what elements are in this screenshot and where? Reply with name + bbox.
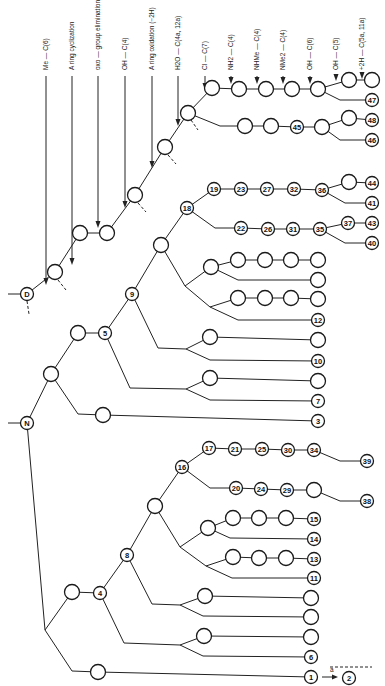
node-circle — [48, 265, 63, 280]
compound-node-43: 43 — [366, 217, 379, 230]
edge — [105, 333, 186, 389]
node-circle — [197, 629, 212, 644]
transformation-t11: OH — C(6) — [306, 38, 314, 85]
node-circle — [284, 291, 299, 306]
node-label: 11 — [310, 574, 318, 583]
intermediate-node — [91, 665, 106, 680]
node-label: 32 — [290, 185, 298, 194]
node-label: 16 — [178, 463, 186, 472]
compound-node-48: 48 — [366, 114, 379, 127]
compound-node-47: 47 — [366, 94, 379, 107]
node-circle — [311, 333, 326, 348]
transformation-label: A ring cyclization — [68, 21, 76, 70]
arrowhead-icon — [44, 278, 49, 285]
intermediate-node — [198, 589, 213, 604]
arrowhead-icon — [255, 77, 260, 84]
node-circle — [342, 111, 357, 126]
compound-node-23: 23 — [235, 183, 248, 196]
transformation-t9: NHMe — C(4) — [253, 29, 261, 84]
edge — [127, 506, 155, 555]
intermediate-node — [304, 591, 319, 606]
transformation-t4: OH — C(4) — [121, 38, 129, 209]
edge — [211, 267, 318, 280]
node-label: 20 — [232, 484, 240, 493]
intermediate-node — [258, 253, 273, 268]
intermediate-node — [128, 188, 143, 203]
node-circle — [232, 82, 247, 97]
compound-node-6: 6 — [305, 651, 318, 664]
dashed-continuation — [138, 203, 146, 212]
reaction-pathway-diagram: a Me — C(6)A ring cyclizationoxo — group… — [0, 0, 385, 686]
edge — [103, 415, 318, 421]
node-label: 2 — [347, 674, 351, 683]
node-label: 29 — [283, 486, 291, 495]
intermediate-node — [284, 291, 299, 306]
compound-node-27: 27 — [261, 183, 274, 196]
node-circle — [342, 175, 357, 190]
edge — [210, 307, 318, 320]
intermediate-node — [65, 585, 80, 600]
node-circle — [307, 483, 322, 498]
node-circle — [264, 119, 279, 134]
edge — [318, 89, 372, 100]
intermediate-node — [311, 273, 326, 288]
compound-node-26: 26 — [262, 223, 275, 236]
intermediate-node — [342, 111, 357, 126]
node-circle — [304, 630, 319, 645]
nodes: DN47454846591819232732364441222631353743… — [21, 73, 380, 685]
edge — [206, 566, 314, 578]
intermediate-node — [279, 511, 294, 526]
compound-node-34: 34 — [308, 444, 321, 457]
compound-node-D: D — [21, 288, 34, 301]
transformation-t10: NMe2 — C(4) — [279, 30, 287, 84]
compound-node-8: 8 — [121, 549, 134, 562]
node-label: 6 — [309, 653, 313, 662]
node-circle — [226, 550, 241, 565]
edge — [132, 294, 186, 349]
intermediate-node — [311, 253, 326, 268]
node-label: 39 — [363, 457, 371, 466]
intermediate-node — [279, 551, 294, 566]
compound-node-35: 35 — [314, 223, 327, 236]
compound-node-21: 21 — [229, 443, 242, 456]
node-label: 5 — [103, 329, 107, 338]
node-label: 44 — [368, 179, 377, 188]
node-circle — [231, 291, 246, 306]
compound-node-4: 4 — [94, 587, 107, 600]
edge — [27, 374, 51, 423]
compound-node-3: 3 — [312, 415, 325, 428]
node-circle — [226, 511, 241, 526]
node-label: 24 — [257, 485, 266, 494]
edge — [98, 672, 311, 677]
transformation-label: OH — C(6) — [306, 38, 314, 71]
node-label: 43 — [368, 219, 376, 228]
transformation-label: OH — C(4) — [121, 38, 129, 71]
edge — [100, 593, 180, 645]
node-circle — [258, 291, 273, 306]
node-circle — [91, 665, 106, 680]
intermediate-node — [226, 550, 241, 565]
compound-node-44: 44 — [366, 177, 379, 190]
node-circle — [304, 610, 319, 625]
node-label: 46 — [368, 136, 376, 145]
arrowhead-icon — [308, 77, 313, 84]
node-label: 27 — [263, 185, 271, 194]
node-label: 19 — [210, 185, 218, 194]
transformation-label: OH — C(5) — [332, 38, 340, 71]
intermediate-node — [96, 408, 111, 423]
dashed-continuation — [168, 155, 176, 164]
node-label: 35 — [316, 225, 324, 234]
compound-node-40: 40 — [366, 237, 379, 250]
compound-node-N: N — [21, 417, 34, 430]
compound-node-25: 25 — [256, 443, 269, 456]
node-circle — [284, 253, 299, 268]
compound-node-38: 38 — [361, 495, 374, 508]
edge — [208, 528, 314, 539]
arrowhead-icon — [332, 675, 338, 680]
dashed-continuation — [191, 120, 198, 130]
node-circle — [259, 82, 274, 97]
node-label: 21 — [231, 445, 239, 454]
node-circle — [252, 511, 267, 526]
node-circle — [279, 511, 294, 526]
transformation-label: A ring oxidation (−2H) — [148, 7, 156, 70]
